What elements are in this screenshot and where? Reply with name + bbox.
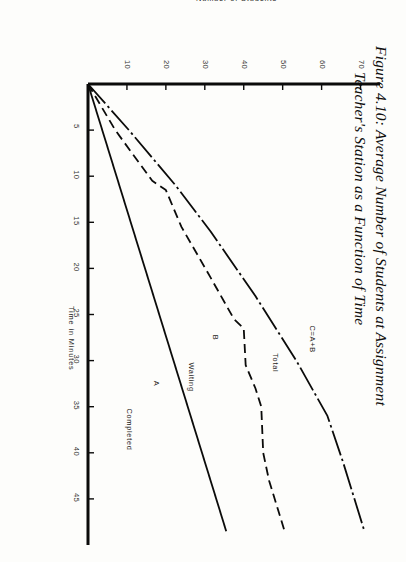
chart-canvas [0,0,406,562]
y-tick-label: 60 [318,60,327,69]
x-tick-label: 40 [72,447,81,456]
y-tick-label: 70 [357,60,366,69]
y-tick-label: 10 [123,60,132,69]
curve-label-b: B [211,335,220,341]
y-axis-title: Number of Students [196,0,277,3]
curve-label-total: Total [271,353,280,372]
series-line-waiting [88,84,285,531]
y-tick-label: 20 [162,60,171,69]
x-tick-label: 35 [72,401,81,410]
y-tick-label: 30 [201,60,210,69]
axes-group [88,84,380,545]
x-tick-label: 5 [72,124,81,129]
y-tick-label: 40 [240,60,249,69]
x-tick-label: 10 [72,170,81,179]
series-line-completed [88,84,226,531]
x-tick-label: 45 [72,493,81,502]
curve-label-completed: Completed [125,409,134,451]
x-axis-title: Time in Minutes [67,306,76,371]
y-tick-label: 50 [279,60,288,69]
figure-page: Figure 4.10: Average Number of Students … [0,0,406,562]
curve-label-waiting: Waiting [187,362,196,391]
series-group [88,84,364,531]
curve-label-cab: C=A+B [308,326,317,353]
x-tick-label: 15 [72,216,81,225]
curve-label-a: A [152,381,161,387]
chart-plot-area: 51015202530354045 10203040506070 Time in… [0,0,406,562]
x-tick-label: 20 [72,262,81,271]
